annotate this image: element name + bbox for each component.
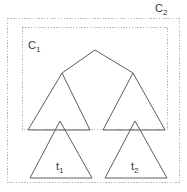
root-branch-left (62, 50, 95, 73)
cluster-box-c1 (23, 28, 168, 130)
cluster-label-c1: C1 (28, 40, 40, 54)
cluster-label-c2-base: C (155, 2, 163, 14)
tree-label-t2-sub: 2 (134, 166, 138, 175)
tree-diagram-svg (0, 0, 187, 192)
figure-canvas: C2 C1 t1 t2 (0, 0, 187, 192)
cluster-label-c2-sub: 2 (163, 8, 167, 17)
tree-label-t2: t2 (131, 161, 139, 175)
subtree-triangle-right (103, 73, 165, 130)
cluster-label-c1-sub: 1 (36, 45, 40, 54)
tree-label-t1-sub: 1 (59, 166, 63, 175)
root-branch-right (95, 50, 133, 73)
subtree-triangle-left (28, 73, 90, 130)
tree-label-t1: t1 (56, 161, 64, 175)
cluster-label-c1-base: C (28, 39, 36, 51)
cluster-label-c2: C2 (155, 3, 167, 17)
